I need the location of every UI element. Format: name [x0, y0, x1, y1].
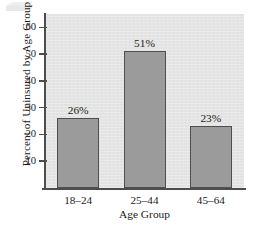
y-axis-tick-label: 20 [14, 129, 36, 139]
y-axis-tick-label-wrap: 40 [14, 81, 36, 91]
y-axis-tick [39, 80, 47, 82]
y-axis-tick [39, 134, 47, 136]
y-axis-tick-label-wrap: 10 [14, 161, 36, 171]
bar [57, 118, 99, 188]
y-axis-tick-label-wrap: 50 [14, 54, 36, 64]
y-axis-tick-label: 50 [14, 49, 36, 59]
y-axis-tick [39, 27, 47, 29]
bar-value-label: 51% [115, 37, 175, 49]
y-axis-tick-label: 60 [14, 22, 36, 32]
bar-chart-figure: Percent of Uninsured by Age Group 102030… [0, 0, 255, 228]
x-axis-tick-label: 18–24 [43, 194, 113, 206]
bar-value-label: 23% [181, 112, 241, 124]
y-axis-tick [39, 53, 47, 55]
y-axis-tick [39, 107, 47, 109]
bar-value-label: 26% [48, 104, 108, 116]
y-axis-tick-label: 10 [14, 156, 36, 166]
y-axis-line [44, 13, 46, 190]
y-axis-tick-label-wrap: 60 [14, 27, 36, 37]
y-axis-tick [39, 160, 47, 162]
x-axis-title: Age Group [45, 208, 244, 221]
y-axis-tick-label: 30 [14, 103, 36, 113]
y-axis-tick-label-wrap: 20 [14, 134, 36, 144]
bar [190, 126, 232, 188]
y-axis-tick-label: 40 [14, 76, 36, 86]
x-axis-tick-label: 25–44 [110, 194, 180, 206]
y-axis-tick-label-wrap: 30 [14, 108, 36, 118]
bar [124, 51, 166, 188]
x-axis-line [42, 188, 246, 190]
x-axis-tick-label: 45–64 [176, 194, 246, 206]
